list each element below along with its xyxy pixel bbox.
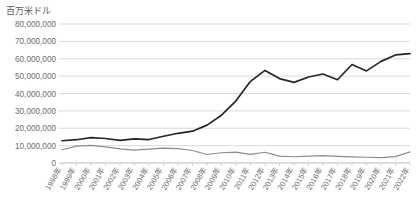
y-axis-tick-label: 50,000,000 [15,72,56,81]
data-line-series-2 [62,145,410,157]
line-chart-plot: 010,000,00020,000,00030,000,00040,000,00… [0,0,416,212]
x-axis-tick-labels: 1998年1999年2000年2001年2002年2003年2004年2005年… [43,165,412,192]
y-axis-tick-label: 10,000,000 [15,142,56,151]
y-axis-tick-label: 70,000,000 [15,37,56,46]
chart-container: 百万米ドル 010,000,00020,000,00030,000,00040,… [0,0,416,212]
y-axis-tick-labels: 010,000,00020,000,00030,000,00040,000,00… [15,20,56,168]
data-series-group [62,54,410,158]
y-axis-tick-label: 20,000,000 [15,124,56,133]
y-axis-tick-label: 30,000,000 [15,107,56,116]
gridlines-group [59,24,410,166]
y-axis-tick-label: 80,000,000 [15,20,56,29]
data-line-series-1 [62,54,410,141]
y-axis-tick-label: 40,000,000 [15,90,56,99]
y-axis-tick-label: 60,000,000 [15,55,56,64]
